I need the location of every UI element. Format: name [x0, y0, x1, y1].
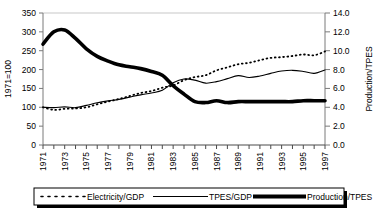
legend-label-electricity-gdp: Electricity/GDP: [87, 192, 144, 202]
right-tick-label: 6.0: [333, 83, 345, 93]
x-tick-label: 1991: [255, 152, 265, 171]
x-tick-label: 1973: [60, 152, 70, 171]
x-tick-label: 1993: [277, 152, 287, 171]
x-tick-label: 1983: [168, 152, 178, 171]
right-tick-label: 2.0: [333, 121, 345, 131]
right-axis-title: Production/TPES: [364, 46, 374, 112]
right-tick-label: 10.0: [333, 46, 350, 56]
right-tick-label: 4.0: [333, 102, 345, 112]
x-tick-label: 1997: [320, 152, 330, 171]
x-axis-tick-labels: 1971197319751977197919811983198519871989…: [38, 152, 330, 171]
x-tick-label: 1981: [146, 152, 156, 171]
right-tick-label: 0.0: [333, 140, 345, 150]
left-tick-label: 0: [31, 140, 36, 150]
x-tick-label: 1975: [81, 152, 91, 171]
left-axis-title: 1971=100: [3, 60, 13, 98]
x-tick-label: 1985: [190, 152, 200, 171]
x-tick-label: 1995: [298, 152, 308, 171]
legend-label-tpes-gdp: TPES/GDP: [209, 192, 252, 202]
right-tick-label: 14.0: [333, 8, 350, 18]
x-tick-label: 1987: [212, 152, 222, 171]
left-tick-label: 100: [22, 102, 36, 112]
right-axis-ticks: 0.02.04.06.08.010.012.014.0: [325, 8, 350, 150]
left-tick-label: 150: [22, 83, 36, 93]
left-axis-ticks: 050100150200250300350: [22, 8, 43, 150]
x-tick-label: 1989: [233, 152, 243, 171]
left-tick-label: 50: [27, 121, 37, 131]
x-axis-ticks: [43, 145, 325, 149]
right-tick-label: 8.0: [333, 65, 345, 75]
left-tick-label: 250: [22, 46, 36, 56]
x-tick-label: 1979: [125, 152, 135, 171]
chart-svg: 050100150200250300350 0.02.04.06.08.010.…: [0, 0, 382, 216]
right-tick-label: 12.0: [333, 27, 350, 37]
chart-container: 050100150200250300350 0.02.04.06.08.010.…: [0, 0, 382, 216]
x-tick-label: 1977: [103, 152, 113, 171]
x-tick-label: 1971: [38, 152, 48, 171]
left-tick-label: 200: [22, 65, 36, 75]
legend-label-production-tpes: Production/TPES: [307, 192, 373, 202]
left-tick-label: 350: [22, 8, 36, 18]
left-tick-label: 300: [22, 27, 36, 37]
